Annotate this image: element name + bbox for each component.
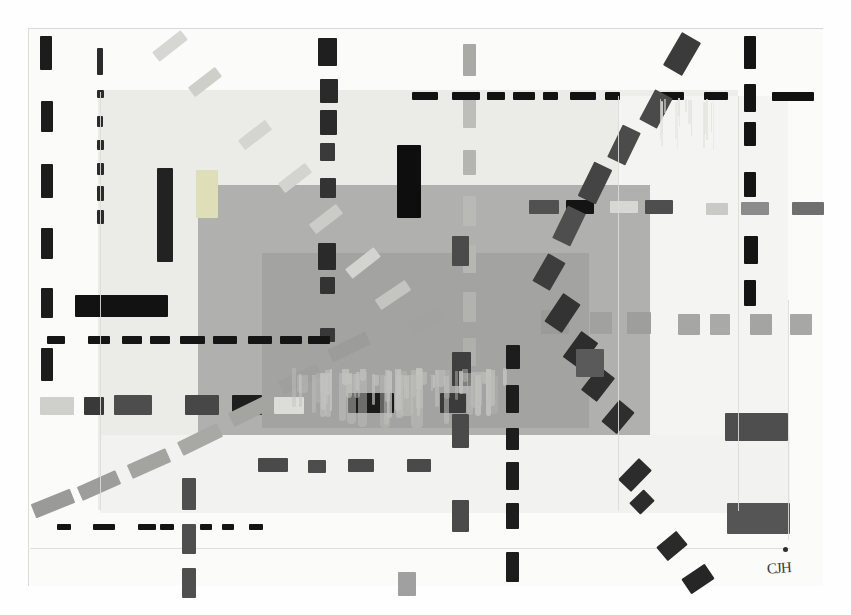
horizontal-black-dash-line-top-item — [487, 92, 505, 100]
third-vertical-black-column-item — [320, 178, 336, 198]
horizontal-gray-square-row-item — [678, 314, 700, 335]
third-vertical-black-column-item — [320, 143, 335, 161]
black-bar-left-low — [75, 295, 168, 317]
paint-drip-wide — [316, 373, 321, 403]
left-vertical-black-dashes-item — [40, 36, 52, 70]
horizontal-gray-square-row-item — [590, 312, 612, 334]
paint-drip-wide — [436, 370, 445, 387]
horizontal-dark-row-mid-item — [185, 395, 219, 415]
horizontal-black-dash-line-bottom-item — [222, 524, 234, 530]
tall-black-bar-left — [157, 168, 173, 262]
horizontal-small-dash-row-lower-item — [407, 459, 431, 472]
left-vertical-black-dashes-item — [41, 228, 53, 259]
pale-square-left-mid — [196, 170, 218, 218]
vertical-gray-mid-right-item — [452, 414, 469, 448]
dark-rect-lower-right2 — [727, 503, 790, 534]
right-vertical-black-column-item — [744, 280, 756, 306]
bottom-center-vertical-dashed-item — [506, 462, 519, 490]
horizontal-gray-square-row-item — [627, 312, 651, 334]
dark-square-midright — [576, 349, 604, 377]
paper-edge-top — [28, 28, 823, 29]
horizontal-black-dash-line-mid-item — [88, 336, 110, 344]
horizontal-black-dash-line-bottom-item — [138, 524, 156, 530]
horizontal-dark-row-mid-item — [40, 397, 74, 415]
left-vertical-black-dashes-item — [41, 164, 53, 198]
horizontal-mid-dark-row-upper-item — [792, 202, 824, 215]
right-vertical-black-column-item — [744, 36, 756, 69]
bottom-center-vertical-dashed-item — [506, 552, 519, 582]
bottom-center-vertical-dashed-item — [506, 503, 519, 529]
paint-drip-wide — [347, 374, 356, 424]
horizontal-black-dash-line-bottom-item — [57, 524, 71, 530]
horizontal-black-dash-line-top-item — [543, 92, 558, 100]
wash-streak — [664, 99, 666, 113]
bottom-wash-field — [100, 435, 790, 513]
wash-streak — [679, 104, 680, 127]
paint-drip-wide — [400, 371, 407, 387]
horizontal-mid-dark-row-upper-item — [741, 202, 769, 215]
canvas-seam-line — [100, 92, 101, 510]
right-vertical-black-column-item — [744, 84, 756, 112]
horizontal-black-dash-line-mid-item — [122, 336, 142, 344]
paint-drip-wide — [487, 376, 498, 414]
wash-streak — [711, 103, 712, 132]
ink-speck — [783, 547, 788, 552]
wash-streak — [691, 100, 692, 136]
horizontal-small-dash-row-lower-item — [348, 459, 374, 472]
horizontal-black-dash-line-mid-item — [213, 336, 237, 344]
left-vertical-black-dashes-item — [41, 348, 53, 381]
mid-vertical-pale-column-item — [463, 44, 476, 76]
mid-vertical-pale-column-item — [463, 98, 476, 128]
gray-square-lower-mid — [398, 572, 416, 596]
lower-left-vertical-gray-dashes-item — [182, 524, 196, 554]
horizontal-mid-dark-row-upper-item — [706, 203, 728, 215]
right-vertical-black-column-item — [744, 236, 758, 264]
horizontal-dark-row-mid-item — [114, 395, 152, 415]
horizontal-black-dash-line-bottom-item — [93, 524, 115, 530]
horizontal-dark-row-mid-item — [84, 397, 104, 415]
horizontal-black-dash-line-top-item — [513, 92, 535, 100]
right-vertical-black-column-item — [744, 172, 756, 197]
horizontal-black-dash-line-mid-item — [47, 336, 65, 344]
right-vertical-black-column-item — [744, 122, 756, 146]
horizontal-black-dash-line-mid-item — [280, 336, 302, 344]
mid-vertical-pale-column-item — [463, 292, 476, 322]
paint-drip — [503, 370, 507, 385]
horizontal-mid-dark-row-upper-item — [610, 201, 638, 213]
canvas-seam-line — [738, 96, 739, 511]
horizontal-mid-dark-row-upper-item — [645, 200, 673, 214]
third-vertical-black-column-item — [318, 38, 337, 66]
paint-drip — [374, 375, 379, 386]
horizontal-black-dash-line-top-item — [452, 92, 480, 100]
horizontal-mid-dark-row-upper-item — [529, 200, 559, 214]
canvas-seam-line — [788, 300, 789, 540]
canvas-seam-line — [618, 96, 619, 511]
third-vertical-black-column-item — [320, 79, 338, 103]
paint-drip-wide — [297, 375, 308, 393]
third-vertical-black-column-item — [320, 110, 337, 135]
wash-streak — [675, 102, 677, 139]
paint-drip — [455, 371, 458, 400]
third-vertical-black-column-item — [318, 243, 336, 270]
horizontal-black-dash-line-top-item — [412, 92, 438, 100]
horizontal-black-dash-line-bottom-item — [249, 524, 263, 530]
horizontal-black-dash-line-top-item — [772, 92, 814, 101]
horizontal-small-dash-row-lower-item — [308, 460, 326, 473]
left-vertical-black-dashes-item — [41, 288, 53, 318]
paint-drip-wide — [358, 372, 367, 427]
paint-drip-wide — [459, 373, 468, 394]
wash-streak — [713, 101, 714, 150]
paint-drip — [431, 375, 433, 391]
lower-left-vertical-gray-dashes-item — [182, 568, 196, 598]
paint-drip-wide — [411, 375, 423, 428]
horizontal-small-dash-row-lower-item — [258, 458, 288, 472]
vertical-gray-mid-right-item — [452, 500, 469, 532]
horizontal-black-dash-line-mid-item — [248, 336, 272, 344]
paint-drip-wide — [380, 375, 390, 428]
horizontal-gray-square-row-item — [790, 314, 812, 335]
horizontal-gray-square-row-item — [750, 314, 772, 335]
horizontal-gray-square-row-item — [710, 314, 730, 335]
lower-left-vertical-gray-dashes-item — [182, 478, 196, 510]
second-vertical-dotted-column-item — [97, 48, 103, 75]
bottom-center-vertical-dashed-item — [506, 385, 519, 413]
